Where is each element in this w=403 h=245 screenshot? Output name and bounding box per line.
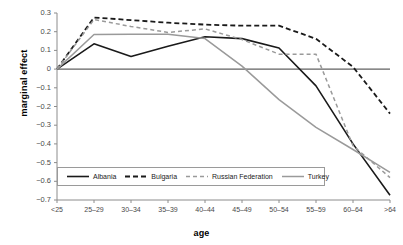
legend-swatch-albania <box>67 172 89 181</box>
plot-area <box>0 0 403 245</box>
marginal-effect-line-chart: marginal effect age 0.30.20.10−0.1−0.2−0… <box>0 0 403 245</box>
legend-label: Albania <box>93 173 116 180</box>
legend-entry-turkey[interactable]: Turkey <box>273 168 329 185</box>
legend-entry-bulgaria[interactable]: Bulgaria <box>116 168 177 185</box>
series-line-russian-federation <box>57 20 390 178</box>
legend-swatch-turkey <box>282 172 304 181</box>
legend-label: Turkey <box>308 173 329 180</box>
legend-swatch-russian-federation <box>186 172 208 181</box>
series-line-bulgaria <box>57 17 390 113</box>
legend-label: Bulgaria <box>151 173 177 180</box>
legend-entry-albania[interactable]: Albania <box>58 168 116 185</box>
chart-legend: AlbaniaBulgariaRussian FederationTurkey <box>57 167 325 186</box>
legend-swatch-bulgaria <box>125 172 147 181</box>
legend-label: Russian Federation <box>212 173 273 180</box>
legend-entry-russian-federation[interactable]: Russian Federation <box>177 168 273 185</box>
series-line-turkey <box>57 34 390 172</box>
